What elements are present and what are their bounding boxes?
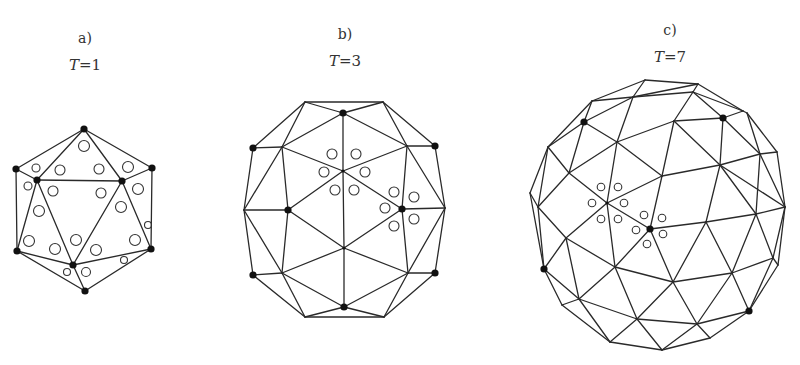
mesh-edge (16, 129, 84, 169)
pentamer-vertex-dot (148, 164, 155, 171)
protein-subunit-ring (597, 183, 605, 191)
mesh-edge (305, 102, 343, 113)
mesh-edge (633, 84, 698, 97)
mesh-edge (579, 299, 610, 342)
protein-subunit-ring (614, 183, 622, 191)
mesh-edge (637, 319, 662, 350)
mesh-edge (344, 307, 384, 317)
mesh-edge (562, 299, 579, 305)
mesh-edge (282, 147, 288, 210)
mesh-edge (706, 222, 732, 273)
mesh-edge (253, 147, 282, 148)
protein-subunit-ring (94, 164, 104, 174)
pentamer-vertex-dot (580, 118, 587, 125)
mesh-edge (773, 207, 785, 258)
mesh-edge (756, 214, 773, 258)
pentamer-vertex-dot (147, 245, 154, 252)
mesh-edge (305, 307, 344, 317)
mesh-edge (773, 258, 778, 265)
pentamer-vertex-dot (13, 247, 20, 254)
panel-c-capsid-t7 (530, 80, 785, 350)
mesh-edge (544, 238, 566, 269)
mesh-edge (610, 342, 662, 350)
mesh-edge (756, 207, 785, 214)
pentamer-vertex-dot (540, 265, 547, 272)
pentamer-vertex-dot (431, 269, 438, 276)
protein-subunit-ring (32, 164, 40, 172)
pentamer-vertex-dot (745, 307, 752, 314)
mesh-edge (673, 282, 697, 324)
protein-subunit-ring (34, 206, 45, 217)
hexamer-vertex-dot (342, 246, 345, 249)
mesh-edge (343, 102, 383, 113)
protein-subunit-ring (659, 230, 667, 238)
protein-subunit-ring (409, 214, 419, 224)
mesh-edge (384, 273, 435, 317)
mesh-edge (693, 92, 743, 111)
mesh-edge (253, 102, 305, 148)
protein-subunit-ring (96, 188, 106, 198)
protein-subunit-ring (64, 269, 71, 276)
mesh-edge (615, 267, 637, 319)
mesh-edge (122, 168, 152, 181)
mesh-edge (607, 203, 615, 267)
protein-subunit-ring (48, 186, 58, 196)
mesh-edge (37, 180, 73, 265)
protein-subunit-ring (389, 187, 399, 197)
mesh-edge (720, 154, 760, 165)
mesh-edge (662, 121, 674, 176)
pentamer-vertex-dot (118, 177, 125, 184)
pentamer-vertex-dot (398, 205, 405, 212)
mesh-edge (637, 282, 673, 319)
pentamer-vertex-dot (339, 109, 346, 116)
protein-subunit-ring (319, 167, 329, 177)
mesh-edge (569, 173, 607, 203)
mesh-edge (673, 273, 732, 282)
mesh-edge (562, 305, 610, 342)
mesh-edge (282, 248, 344, 273)
protein-subunit-ring (121, 257, 128, 264)
pentamer-vertex-dot (249, 144, 256, 151)
hexamer-vertex-dot (341, 169, 344, 172)
mesh-edge (37, 129, 84, 180)
mesh-edge (344, 248, 408, 273)
pentamer-vertex-dot (81, 287, 88, 294)
mesh-edge (383, 102, 435, 146)
mesh-edge (720, 165, 756, 214)
protein-subunit-ring (351, 149, 361, 159)
protein-subunit-ring (640, 211, 648, 219)
protein-subunit-ring (24, 182, 32, 190)
mesh-edge (743, 111, 747, 113)
mesh-edge (566, 238, 615, 267)
pentamer-vertex-dot (719, 114, 726, 121)
pentamer-vertex-dot (33, 176, 40, 183)
mesh-edge (674, 118, 723, 121)
mesh-edge (17, 251, 85, 291)
protein-subunit-ring (409, 192, 419, 202)
pentamer-vertex-dot (80, 125, 87, 132)
protein-subunit-ring (24, 236, 35, 247)
protein-subunit-ring (349, 185, 359, 195)
mesh-edge (617, 142, 662, 176)
mesh-edge (402, 208, 445, 209)
protein-subunit-ring (620, 199, 628, 207)
mesh-edge (244, 210, 282, 273)
mesh-edge (710, 311, 749, 338)
protein-subunit-ring (614, 215, 622, 223)
mesh-edge (645, 80, 698, 84)
mesh-edge (253, 273, 282, 275)
protein-subunit-ring (116, 202, 127, 213)
protein-subunit-ring (588, 199, 596, 207)
mesh-edge (706, 165, 720, 222)
mesh-edge (402, 146, 407, 209)
mesh-edge (662, 165, 720, 176)
protein-subunit-ring (79, 141, 90, 152)
protein-subunit-ring (327, 149, 337, 159)
mesh-edge (579, 267, 615, 299)
protein-subunit-ring (133, 184, 144, 195)
protein-subunit-ring (82, 268, 91, 277)
mesh-edge (37, 180, 122, 181)
protein-subunit-ring (330, 185, 340, 195)
hexamer-vertex-dot (605, 201, 608, 204)
protein-subunit-ring (389, 221, 399, 231)
